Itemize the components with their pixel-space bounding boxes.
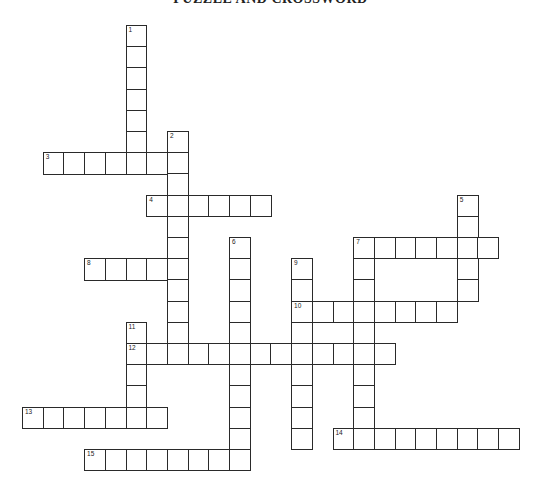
crossword-cell[interactable] xyxy=(167,195,189,217)
crossword-cell[interactable] xyxy=(229,322,251,344)
crossword-cell[interactable] xyxy=(415,301,437,323)
crossword-cell[interactable]: 5 xyxy=(457,195,479,217)
crossword-cell[interactable]: 14 xyxy=(333,428,355,450)
crossword-cell[interactable] xyxy=(353,279,375,301)
crossword-cell[interactable]: 12 xyxy=(126,343,148,365)
crossword-cell[interactable] xyxy=(167,301,189,323)
crossword-cell[interactable] xyxy=(457,258,479,280)
crossword-cell[interactable] xyxy=(208,343,230,365)
crossword-cell[interactable] xyxy=(43,407,65,429)
crossword-cell[interactable] xyxy=(291,279,313,301)
crossword-cell[interactable] xyxy=(333,301,355,323)
crossword-cell[interactable]: 11 xyxy=(126,322,148,344)
crossword-cell[interactable] xyxy=(188,343,210,365)
crossword-cell[interactable] xyxy=(457,428,479,450)
crossword-cell[interactable] xyxy=(436,428,458,450)
crossword-cell[interactable] xyxy=(457,216,479,238)
crossword-cell[interactable]: 7 xyxy=(353,237,375,259)
crossword-cell[interactable] xyxy=(291,428,313,450)
crossword-cell[interactable] xyxy=(167,173,189,195)
crossword-cell[interactable] xyxy=(395,428,417,450)
crossword-cell[interactable] xyxy=(126,407,148,429)
crossword-cell[interactable] xyxy=(353,364,375,386)
crossword-cell[interactable] xyxy=(477,428,499,450)
crossword-cell[interactable] xyxy=(374,428,396,450)
crossword-cell[interactable] xyxy=(312,301,334,323)
crossword-cell[interactable] xyxy=(208,449,230,471)
crossword-cell[interactable] xyxy=(188,195,210,217)
crossword-cell[interactable] xyxy=(415,428,437,450)
crossword-cell[interactable] xyxy=(229,195,251,217)
crossword-cell[interactable] xyxy=(229,301,251,323)
crossword-cell[interactable] xyxy=(374,301,396,323)
crossword-cell[interactable] xyxy=(167,449,189,471)
crossword-cell[interactable] xyxy=(126,89,148,111)
crossword-cell[interactable] xyxy=(229,343,251,365)
crossword-cell[interactable] xyxy=(333,343,355,365)
crossword-cell[interactable] xyxy=(353,258,375,280)
crossword-cell[interactable] xyxy=(126,364,148,386)
crossword-cell[interactable]: 13 xyxy=(22,407,44,429)
crossword-cell[interactable] xyxy=(63,152,85,174)
crossword-cell[interactable]: 8 xyxy=(84,258,106,280)
crossword-cell[interactable] xyxy=(291,322,313,344)
crossword-cell[interactable] xyxy=(457,237,479,259)
crossword-cell[interactable]: 9 xyxy=(291,258,313,280)
crossword-cell[interactable]: 3 xyxy=(43,152,65,174)
crossword-cell[interactable] xyxy=(167,279,189,301)
crossword-cell[interactable] xyxy=(353,385,375,407)
crossword-cell[interactable]: 1 xyxy=(126,25,148,47)
crossword-cell[interactable] xyxy=(415,237,437,259)
crossword-cell[interactable] xyxy=(395,237,417,259)
crossword-cell[interactable] xyxy=(84,407,106,429)
crossword-cell[interactable] xyxy=(146,258,168,280)
crossword-cell[interactable] xyxy=(250,195,272,217)
crossword-cell[interactable] xyxy=(353,301,375,323)
crossword-cell[interactable] xyxy=(167,152,189,174)
crossword-cell[interactable]: 10 xyxy=(291,301,313,323)
crossword-cell[interactable] xyxy=(477,237,499,259)
crossword-cell[interactable] xyxy=(229,258,251,280)
crossword-cell[interactable] xyxy=(291,364,313,386)
crossword-cell[interactable] xyxy=(229,428,251,450)
crossword-cell[interactable] xyxy=(126,152,148,174)
crossword-cell[interactable] xyxy=(498,428,520,450)
crossword-cell[interactable] xyxy=(167,237,189,259)
crossword-cell[interactable] xyxy=(436,237,458,259)
crossword-cell[interactable] xyxy=(312,343,334,365)
crossword-cell[interactable] xyxy=(188,449,210,471)
crossword-cell[interactable] xyxy=(229,364,251,386)
crossword-cell[interactable] xyxy=(126,110,148,132)
crossword-cell[interactable] xyxy=(229,385,251,407)
crossword-cell[interactable] xyxy=(126,131,148,153)
crossword-cell[interactable] xyxy=(126,258,148,280)
crossword-cell[interactable] xyxy=(270,343,292,365)
crossword-cell[interactable] xyxy=(229,279,251,301)
crossword-cell[interactable] xyxy=(126,67,148,89)
crossword-cell[interactable] xyxy=(126,385,148,407)
crossword-cell[interactable]: 4 xyxy=(146,195,168,217)
crossword-cell[interactable] xyxy=(374,237,396,259)
crossword-cell[interactable] xyxy=(208,195,230,217)
crossword-cell[interactable] xyxy=(353,322,375,344)
crossword-cell[interactable] xyxy=(229,449,251,471)
crossword-cell[interactable] xyxy=(167,343,189,365)
crossword-cell[interactable] xyxy=(291,343,313,365)
crossword-cell[interactable] xyxy=(167,258,189,280)
crossword-cell[interactable] xyxy=(105,407,127,429)
crossword-cell[interactable] xyxy=(167,322,189,344)
crossword-cell[interactable]: 2 xyxy=(167,131,189,153)
crossword-cell[interactable] xyxy=(229,407,251,429)
crossword-cell[interactable] xyxy=(84,152,106,174)
crossword-cell[interactable] xyxy=(374,343,396,365)
crossword-cell[interactable]: 15 xyxy=(84,449,106,471)
crossword-cell[interactable] xyxy=(436,301,458,323)
crossword-cell[interactable] xyxy=(457,279,479,301)
crossword-cell[interactable] xyxy=(353,343,375,365)
crossword-cell[interactable] xyxy=(395,301,417,323)
crossword-cell[interactable] xyxy=(291,385,313,407)
crossword-cell[interactable] xyxy=(105,258,127,280)
crossword-cell[interactable] xyxy=(105,449,127,471)
crossword-cell[interactable] xyxy=(146,343,168,365)
crossword-cell[interactable] xyxy=(146,449,168,471)
